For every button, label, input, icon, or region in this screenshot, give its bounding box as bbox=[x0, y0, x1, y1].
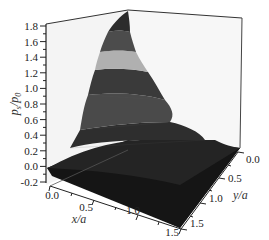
z-ticks bbox=[40, 26, 46, 182]
z-tick-label: 1.0 bbox=[24, 82, 38, 94]
x-tick-label: 0.0 bbox=[45, 189, 59, 201]
z-tick-label: 1.4 bbox=[24, 51, 38, 63]
z-tick-label: 0.8 bbox=[24, 98, 38, 110]
z-tick-label: 1.8 bbox=[24, 20, 38, 32]
x-tick-label: 1.0 bbox=[126, 204, 140, 216]
y-tick-label: 0.5 bbox=[228, 172, 242, 184]
z-tick-label: 0.0 bbox=[24, 160, 38, 172]
surface-plot: 1.8 1.6 1.4 1.2 1.0 0.8 0.6 0.4 0.2 0.0 … bbox=[0, 0, 269, 240]
y-tick-label: 1.5 bbox=[190, 217, 204, 229]
z-axis-label: ps/p0 bbox=[7, 93, 23, 116]
z-tick-label: 1.6 bbox=[24, 36, 38, 48]
z-tick-label: -0.2 bbox=[21, 176, 38, 188]
z-tick-label: 0.4 bbox=[24, 129, 38, 141]
y-axis-label: y/a bbox=[232, 188, 248, 202]
y-tick-label: 1.0 bbox=[209, 192, 223, 204]
z-tick-label: 0.2 bbox=[24, 145, 38, 157]
z-tick-label: 0.6 bbox=[24, 114, 38, 126]
z-tick-label: 1.2 bbox=[24, 67, 38, 79]
y-tick-label: 0.0 bbox=[246, 153, 260, 165]
x-tick-label: 1.5 bbox=[165, 226, 179, 238]
x-axis-label: x/a bbox=[71, 212, 87, 226]
